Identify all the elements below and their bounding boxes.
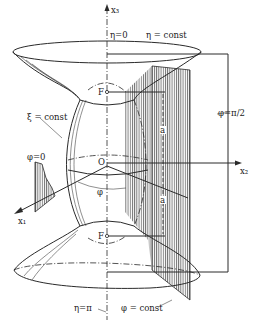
x3-axis[interactable]: [105, 4, 110, 320]
focus-bottom-label: F: [98, 231, 104, 241]
phi-angle-label: φ: [97, 187, 103, 197]
phi-zero-half-plane: [35, 162, 55, 212]
x1-axis-label: x₁: [18, 216, 26, 226]
phi-zero-label: φ=0: [27, 152, 45, 162]
x2-axis-label: x₂: [240, 166, 248, 176]
phi-const-label: φ = const: [121, 303, 163, 313]
x3-axis-label: x₃: [111, 5, 119, 15]
origin-label: O: [98, 157, 105, 167]
prolate-spheroidal-coordinates-diagram: x₃ x₂ x₁ η=0 η = const ξ = const φ=0 φ=π…: [0, 0, 267, 330]
focus-top-point: [105, 90, 108, 93]
focus-bottom-point: [105, 234, 108, 237]
eta-pi-label: η=π: [74, 303, 92, 313]
a-top-label: a: [160, 125, 165, 135]
a-bottom-label: a: [160, 195, 165, 205]
focus-top-label: F: [98, 87, 104, 97]
x1-axis[interactable]: [14, 166, 107, 214]
eta-const-label: η = const: [146, 30, 187, 40]
eta-zero-label: η=0: [110, 30, 128, 40]
xi-const-label: ξ = const: [27, 112, 68, 122]
phi-half-pi-label: φ=π/2: [218, 108, 245, 118]
